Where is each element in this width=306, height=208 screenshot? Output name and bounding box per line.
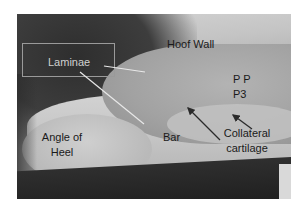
collateral-cartilage-arrow-1 (188, 108, 220, 140)
collateral-cartilage-label-line2: cartilage (220, 142, 274, 154)
angle-of-heel-label-line2: Heel (40, 146, 84, 158)
laminae-pointer-line-2 (80, 72, 144, 124)
hoof-wall-label: Hoof Wall (167, 38, 214, 50)
p3-label: P3 (233, 88, 246, 100)
laminae-pointer-line-1 (104, 66, 145, 72)
laminae-label: Laminae (48, 56, 90, 68)
collateral-cartilage-label-line1: Collateral (220, 127, 274, 139)
angle-of-heel-label-line1: Angle of (40, 131, 84, 143)
annotation-overlay (0, 0, 306, 208)
bar-label: Bar (163, 131, 180, 143)
pp-label: P P (233, 73, 251, 85)
